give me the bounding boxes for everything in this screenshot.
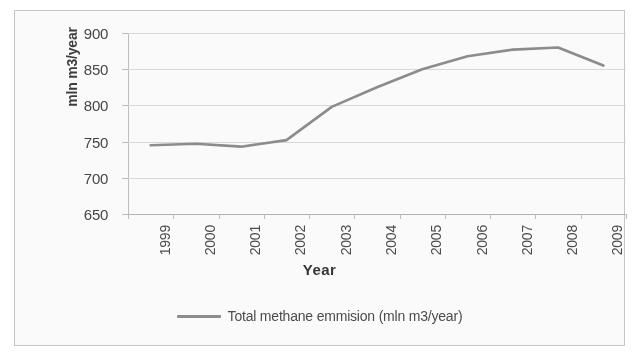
chart-frame: mln m3/year 650700750800850900 199920002… [14, 10, 625, 346]
series-line-chart [128, 33, 626, 214]
x-axis-line [128, 214, 626, 215]
x-axis-tick-mark [535, 214, 536, 219]
series-total-methane-emmision [151, 47, 604, 146]
chart-legend: Total methane emmision (mln m3/year) [15, 308, 624, 324]
y-axis-tick-label: 800 [62, 97, 108, 114]
legend-item: Total methane emmision (mln m3/year) [177, 308, 463, 324]
x-axis-tick-mark [264, 214, 265, 219]
x-axis-tick-mark [400, 214, 401, 219]
x-axis-tick-mark [445, 214, 446, 219]
x-axis-tick-mark [173, 214, 174, 219]
y-axis-tick-label: 750 [62, 133, 108, 150]
x-axis-tick-mark [626, 214, 627, 219]
legend-item-label: Total methane emmision (mln m3/year) [228, 308, 463, 324]
chart-screenshot: mln m3/year 650700750800850900 199920002… [0, 0, 641, 358]
x-axis-tick-mark [309, 214, 310, 219]
y-axis-tick-label: 650 [62, 206, 108, 223]
x-axis-tick-mark [581, 214, 582, 219]
plot-area: 650700750800850900 199920002001200220032… [114, 23, 626, 213]
y-axis-tick-label: 900 [62, 25, 108, 42]
y-axis-tick-label: 700 [62, 169, 108, 186]
x-axis-tick-mark [354, 214, 355, 219]
x-axis-tick-mark [490, 214, 491, 219]
x-axis-tick-mark [128, 214, 129, 219]
x-axis-title: Year [15, 261, 624, 278]
legend-line-swatch [177, 315, 221, 318]
y-axis-tick-label: 850 [62, 61, 108, 78]
x-axis-tick-mark [219, 214, 220, 219]
